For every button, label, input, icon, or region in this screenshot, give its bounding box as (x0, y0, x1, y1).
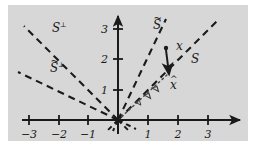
arrow-x-to-x-hat (166, 50, 169, 74)
x-tick-label-pos2: 2 (174, 128, 182, 141)
hat-accent-x-hat: ^ (170, 74, 178, 84)
x-tick-label-pos1: 1 (145, 128, 152, 141)
label-s-tilde-group: S ~ (153, 12, 162, 32)
x-tick-label-pos3: 3 (205, 128, 212, 141)
point-x-dot (164, 46, 168, 50)
label-s-tilde-perp-group: S ~ ⊥ (50, 55, 65, 75)
line-s-tilde (118, 19, 166, 120)
right-angle-mark3-icon (135, 101, 141, 106)
perp-symbol-s-perp: ⊥ (60, 21, 67, 29)
line-s-perp (24, 26, 118, 120)
dotted-origin-to-x-hat (118, 74, 168, 120)
projection-arrow (164, 46, 169, 74)
right-angle-mark2-icon (152, 87, 159, 92)
plot-svg: −3 −2 −1 1 2 3 1 2 3 S S ~ S ⊥ (0, 0, 257, 147)
projection-guide (118, 74, 168, 120)
curve-labels: S S ~ S ⊥ S ~ ⊥ x x ^ (50, 12, 199, 92)
label-point-x-hat-group: x ^ (170, 74, 178, 92)
y-tick-label-2: 2 (100, 53, 108, 66)
perp-symbol-s-tilde-perp: ⊥ (58, 61, 65, 69)
y-tick-label-1: 1 (101, 84, 108, 97)
tilde-accent-s-tilde: ~ (154, 12, 162, 23)
figure-root: −3 −2 −1 1 2 3 1 2 3 S S ~ S ⊥ (0, 0, 257, 147)
label-s-perp-group: S ⊥ (52, 21, 67, 35)
x-tick-label-neg1: −1 (80, 128, 96, 141)
label-point-x: x (176, 39, 183, 53)
x-tick-label-neg3: −3 (21, 128, 37, 141)
y-tick-label-3: 3 (101, 23, 108, 36)
label-s: S (191, 52, 199, 66)
x-tick-label-neg2: −2 (51, 128, 67, 141)
label-s-perp: S (52, 21, 60, 35)
right-angle-mark-icon (144, 94, 151, 99)
